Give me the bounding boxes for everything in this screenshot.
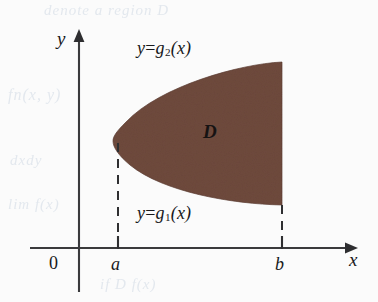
x-tick-label-a: a	[111, 254, 120, 275]
lower-curve-label-fn: g	[156, 203, 165, 223]
lower-curve-label-arg: (x)	[171, 203, 192, 223]
y-axis-arrowhead	[74, 29, 85, 42]
lower-curve-label-eq: =	[145, 203, 155, 223]
region-label-d: D	[203, 121, 217, 143]
x-axis-label: x	[349, 249, 357, 271]
figure-container: denote a region D fn(x, y) dxdy lim f(x)…	[0, 0, 378, 302]
upper-curve-label: y=g2(x)	[137, 38, 191, 59]
lower-curve-label-y: y	[137, 203, 145, 223]
upper-curve-label-arg: (x)	[171, 38, 192, 58]
origin-label: 0	[49, 253, 58, 274]
x-tick-label-b: b	[275, 254, 284, 275]
upper-curve-label-y: y	[137, 38, 145, 58]
upper-curve-label-fn: g	[156, 38, 165, 58]
shaded-region-d	[113, 62, 282, 205]
upper-curve-label-eq: =	[145, 38, 155, 58]
y-axis-label: y	[57, 28, 65, 50]
lower-curve-label: y=g1(x)	[137, 203, 191, 224]
